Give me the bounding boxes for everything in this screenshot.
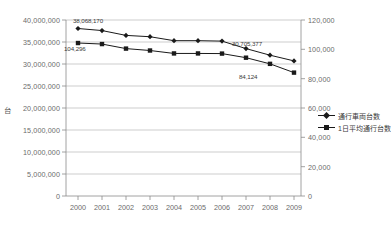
y2-axis-tick-label: 40,000 <box>308 133 331 142</box>
y-axis-tick-label: 35,000,000 <box>4 38 60 47</box>
x-tick-marks <box>78 196 294 200</box>
diamond-marker-icon <box>318 111 335 120</box>
y-axis-tick-label: 0 <box>4 192 60 201</box>
x-axis-tick-label: 2006 <box>210 203 234 212</box>
y-axis-tick-label: 10,000,000 <box>4 148 60 157</box>
x-axis-tick-label: 2002 <box>114 203 138 212</box>
square-marker-icon <box>318 123 335 132</box>
data-point-label: 38,068,170 <box>73 17 103 24</box>
data-point-marker <box>124 46 128 50</box>
chart-legend: 通行車両台数 1日平均通行台数 <box>318 110 388 134</box>
data-point-marker <box>292 70 296 74</box>
data-point-marker <box>147 34 152 39</box>
data-point-marker <box>75 26 80 31</box>
data-point-marker <box>291 58 296 63</box>
y-axis-unit-label: 台 <box>4 104 11 115</box>
x-axis-tick-label: 2009 <box>282 203 306 212</box>
data-point-marker <box>195 38 200 43</box>
y2-axis-tick-label: 100,000 <box>308 45 335 54</box>
series-traffic-volume <box>75 26 296 64</box>
series-daily-average <box>76 41 296 75</box>
data-point-label: 30,705,377 <box>232 40 262 47</box>
y-axis-tick-label: 5,000,000 <box>4 170 60 179</box>
y-right-tick-marks <box>301 20 305 196</box>
y2-axis-tick-label: 80,000 <box>308 75 331 84</box>
data-point-label: 84,124 <box>239 73 257 80</box>
y-axis-tick-label: 20,000,000 <box>4 104 60 113</box>
x-axis-tick-label: 2003 <box>138 203 162 212</box>
legend-item-traffic-volume[interactable]: 通行車両台数 <box>318 110 388 121</box>
legend-item-daily-average[interactable]: 1日平均通行台数 <box>318 122 388 133</box>
data-point-label: 104,296 <box>64 45 86 52</box>
data-point-marker <box>123 33 128 38</box>
x-axis-tick-label: 2000 <box>66 203 90 212</box>
data-point-marker <box>196 51 200 55</box>
data-point-marker <box>172 51 176 55</box>
data-point-marker <box>268 62 272 66</box>
legend-label: 通行車両台数 <box>335 111 380 121</box>
data-point-marker <box>244 55 248 59</box>
y-axis-tick-label: 25,000,000 <box>4 82 60 91</box>
y-axis-tick-label: 15,000,000 <box>4 126 60 135</box>
data-point-marker <box>267 53 272 58</box>
x-axis-tick-label: 2008 <box>258 203 282 212</box>
y2-axis-tick-label: 120,000 <box>308 16 335 25</box>
x-axis-tick-label: 2001 <box>90 203 114 212</box>
y-axis-tick-label: 30,000,000 <box>4 60 60 69</box>
y2-axis-tick-label: 0 <box>308 192 312 201</box>
data-point-marker <box>99 28 104 33</box>
data-point-marker <box>219 39 224 44</box>
data-point-marker <box>148 48 152 52</box>
data-point-marker <box>220 51 224 55</box>
y2-axis-tick-label: 20,000 <box>308 163 331 172</box>
legend-label: 1日平均通行台数 <box>335 123 391 133</box>
x-axis-tick-label: 2005 <box>186 203 210 212</box>
data-point-marker <box>171 38 176 43</box>
y-axis-tick-label: 40,000,000 <box>4 16 60 25</box>
data-series-layer <box>75 26 296 75</box>
x-axis-tick-label: 2007 <box>234 203 258 212</box>
x-axis-tick-label: 2004 <box>162 203 186 212</box>
data-point-marker <box>100 42 104 46</box>
